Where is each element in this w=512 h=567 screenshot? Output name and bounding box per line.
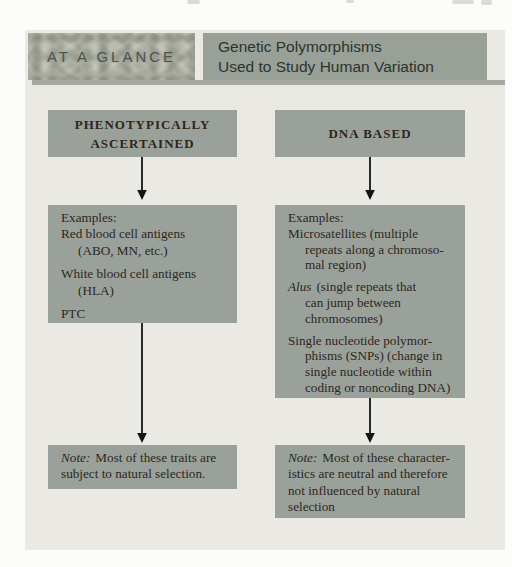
example-item: Alus(single repeats that [288, 279, 457, 295]
note-italic-label: Note: [288, 450, 317, 465]
arrow-down-icon [364, 398, 376, 443]
right-examples-box: Examples: Microsatellites (multiple repe… [275, 205, 465, 398]
example-item: can jump between [288, 295, 457, 311]
page-edge-text-fragment [452, 0, 474, 4]
example-item: repeats along a chromoso- [288, 242, 457, 258]
example-item: coding or noncoding DNA) [288, 380, 457, 396]
arrow-down-icon [136, 157, 148, 200]
example-item: single nucleotide within [288, 364, 457, 380]
page-edge-text-fragment [346, 0, 354, 3]
example-item: Red blood cell antigens [61, 226, 229, 242]
arrow-down-icon [364, 157, 376, 200]
example-item: chromosomes) [288, 311, 457, 327]
diagram-title-line2: Used to Study Human Variation [218, 57, 487, 77]
example-item: phisms (SNPs) (change in [288, 348, 457, 364]
left-column-heading-box: PHENOTYPICALLY ASCERTAINED [48, 110, 237, 157]
alus-italic-label: Alus [288, 279, 311, 294]
note-italic-label: Note: [61, 450, 90, 465]
left-examples-box: Examples: Red blood cell antigens (ABO, … [48, 205, 237, 323]
at-a-glance-diagram: AT A GLANCE Genetic Polymorphisms Used t… [25, 30, 505, 550]
note-line: istics are neutral and therefore [288, 466, 457, 482]
example-item: White blood cell antigens [61, 266, 229, 282]
diagram-title-line1: Genetic Polymorphisms [218, 37, 487, 57]
page-edge-text-fragment [481, 0, 492, 5]
right-column-heading-box: DNA BASED [275, 110, 465, 157]
note-line: subject to natural selection. [61, 466, 229, 482]
example-item: Microsatellites (multiple [288, 226, 457, 242]
note-line: not influenced by natural [288, 483, 457, 499]
example-item: (HLA) [61, 283, 229, 299]
kicker-box: AT A GLANCE [28, 33, 195, 80]
header-shadow-strip [32, 80, 505, 85]
example-item: Single nucleotide polymor- [288, 333, 457, 349]
left-note-box: Note:Most of these traits are subject to… [48, 445, 237, 489]
example-item: mal region) [288, 257, 457, 273]
examples-label: Examples: [61, 210, 229, 226]
arrow-down-icon [136, 323, 148, 443]
right-heading-line1: DNA BASED [328, 124, 411, 143]
example-item: PTC [61, 306, 229, 322]
left-heading-line2: ASCERTAINED [90, 134, 194, 153]
title-box: Genetic Polymorphisms Used to Study Huma… [203, 33, 487, 80]
kicker-label: AT A GLANCE [47, 48, 176, 65]
left-heading-line1: PHENOTYPICALLY [75, 115, 211, 134]
note-line: selection [288, 499, 457, 515]
right-note-box: Note:Most of these character- istics are… [275, 445, 465, 518]
note-line: Note:Most of these character- [288, 450, 457, 466]
page-edge-text-fragment [187, 0, 200, 4]
note-line: Note:Most of these traits are [61, 450, 229, 466]
example-item: (ABO, MN, etc.) [61, 243, 229, 259]
examples-label: Examples: [288, 210, 457, 226]
